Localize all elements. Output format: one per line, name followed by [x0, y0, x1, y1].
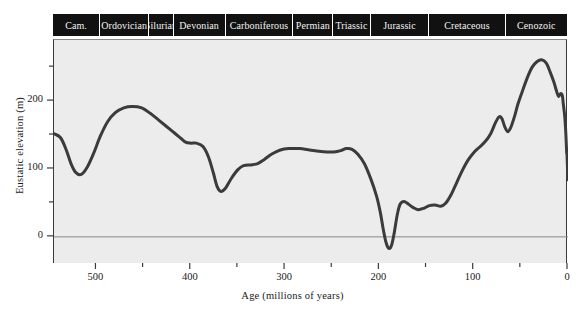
period-band-permian[interactable]: Permian	[293, 14, 333, 36]
y-axis-title: Eustatic elevation (m)	[14, 81, 25, 211]
x-tick-label: 400	[170, 271, 210, 282]
x-axis-title: Age (millions of years)	[0, 290, 585, 301]
period-band-carboniferous[interactable]: Carboniferous	[226, 14, 294, 36]
period-band-devonian[interactable]: Devonian	[174, 14, 226, 36]
period-band-label: Ordovician	[101, 20, 147, 31]
x-tick-label: 200	[358, 271, 398, 282]
period-band-ordovician[interactable]: Ordovician	[100, 14, 149, 36]
period-band-label: Cam.	[65, 20, 87, 31]
eustatic-elevation-line	[54, 60, 568, 249]
period-band-triassic[interactable]: Triassic	[333, 14, 371, 36]
period-band-label: Carboniferous	[230, 20, 289, 31]
x-tick-label: 0	[547, 271, 585, 282]
period-band-label: Permian	[296, 20, 330, 31]
period-band-label: Silurian	[149, 20, 174, 31]
period-band-label: Cenozoic	[517, 20, 556, 31]
plot-area	[53, 39, 567, 263]
period-band-label: Triassic	[335, 20, 367, 31]
eustatic-sea-level-chart: Cam.OrdovicianSilurianDevonianCarbonifer…	[0, 0, 585, 319]
period-band-label: Cretaceous	[444, 20, 489, 31]
period-band-cam[interactable]: Cam.	[53, 14, 100, 36]
period-band-label: Devonian	[179, 20, 219, 31]
y-tick-label: 0	[9, 229, 43, 240]
x-tick-label: 300	[264, 271, 304, 282]
x-tick-label: 100	[453, 271, 493, 282]
x-tick-label: 500	[75, 271, 115, 282]
period-band-cenozoic[interactable]: Cenozoic	[506, 14, 567, 36]
period-band-jurassic[interactable]: Jurassic	[371, 14, 429, 36]
period-band-silurian[interactable]: Silurian	[149, 14, 174, 36]
sea-level-curve	[54, 40, 568, 264]
period-band-label: Jurassic	[383, 20, 415, 31]
period-band-cretaceous[interactable]: Cretaceous	[429, 14, 505, 36]
